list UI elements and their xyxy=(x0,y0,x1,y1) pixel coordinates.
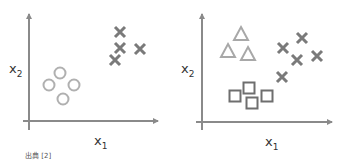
triangle-marker xyxy=(234,27,248,40)
circle-marker xyxy=(69,80,80,91)
square-marker xyxy=(244,83,255,94)
cross-marker xyxy=(312,51,322,61)
square-marker xyxy=(262,91,273,102)
triangle-marker xyxy=(221,44,235,57)
circle-marker xyxy=(55,68,66,79)
cross-marker xyxy=(292,55,302,65)
right-x-label: x1 xyxy=(265,134,278,152)
cross-marker xyxy=(135,44,145,54)
right-y-label: x2 xyxy=(181,61,194,79)
cross-marker xyxy=(110,55,120,65)
cross-marker xyxy=(277,72,287,82)
cross-marker xyxy=(278,43,288,53)
left-chart: x2 x1 xyxy=(9,14,158,151)
left-y-label: x2 xyxy=(9,61,22,79)
circle-marker xyxy=(44,80,55,91)
source-caption: 出典 [2] xyxy=(25,150,51,160)
circle-marker xyxy=(58,94,69,105)
scatter-figures: x2 x1 x2 x1 xyxy=(0,0,339,166)
cross-marker xyxy=(297,33,307,43)
right-points xyxy=(221,27,322,109)
square-marker xyxy=(247,98,258,109)
cross-marker xyxy=(115,27,125,37)
left-x-label: x1 xyxy=(94,133,107,151)
left-points xyxy=(44,27,146,105)
right-chart: x2 x1 xyxy=(181,14,332,152)
cross-marker xyxy=(115,43,125,53)
square-marker xyxy=(230,91,241,102)
triangle-marker xyxy=(241,47,255,60)
